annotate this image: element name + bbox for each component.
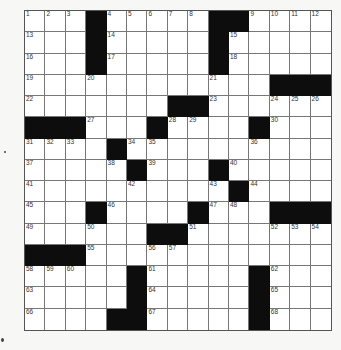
answer-cell[interactable]: 43 — [209, 181, 229, 202]
answer-cell[interactable]: 62 — [270, 266, 290, 287]
answer-cell[interactable] — [168, 160, 188, 181]
answer-cell[interactable] — [229, 96, 249, 117]
answer-cell[interactable]: 40 — [229, 160, 249, 181]
answer-cell[interactable] — [66, 54, 86, 75]
answer-cell[interactable] — [107, 75, 127, 96]
answer-cell[interactable]: 58 — [25, 266, 45, 287]
answer-cell[interactable] — [127, 224, 147, 245]
answer-cell[interactable] — [45, 202, 65, 223]
answer-cell[interactable]: 8 — [188, 11, 208, 32]
answer-cell[interactable]: 1 — [25, 11, 45, 32]
answer-cell[interactable]: 56 — [147, 245, 167, 266]
answer-cell[interactable] — [188, 266, 208, 287]
answer-cell[interactable]: 22 — [25, 96, 45, 117]
answer-cell[interactable]: 14 — [107, 32, 127, 53]
answer-cell[interactable] — [45, 160, 65, 181]
answer-cell[interactable]: 31 — [25, 139, 45, 160]
answer-cell[interactable]: 50 — [86, 224, 106, 245]
answer-cell[interactable] — [311, 139, 331, 160]
answer-cell[interactable]: 64 — [147, 287, 167, 308]
answer-cell[interactable] — [107, 266, 127, 287]
answer-cell[interactable] — [249, 160, 269, 181]
answer-cell[interactable] — [188, 287, 208, 308]
answer-cell[interactable] — [311, 287, 331, 308]
answer-cell[interactable]: 20 — [86, 75, 106, 96]
answer-cell[interactable] — [270, 32, 290, 53]
answer-cell[interactable] — [45, 75, 65, 96]
answer-cell[interactable] — [86, 309, 106, 330]
answer-cell[interactable] — [311, 54, 331, 75]
answer-cell[interactable] — [209, 266, 229, 287]
answer-cell[interactable] — [229, 309, 249, 330]
answer-cell[interactable]: 15 — [229, 32, 249, 53]
answer-cell[interactable] — [66, 287, 86, 308]
answer-cell[interactable] — [311, 181, 331, 202]
answer-cell[interactable] — [168, 32, 188, 53]
answer-cell[interactable] — [249, 224, 269, 245]
answer-cell[interactable] — [188, 309, 208, 330]
answer-cell[interactable] — [147, 202, 167, 223]
answer-cell[interactable] — [209, 224, 229, 245]
answer-cell[interactable] — [311, 117, 331, 138]
answer-cell[interactable] — [127, 117, 147, 138]
answer-cell[interactable] — [168, 202, 188, 223]
answer-cell[interactable]: 10 — [270, 11, 290, 32]
answer-cell[interactable] — [107, 96, 127, 117]
answer-cell[interactable] — [249, 54, 269, 75]
answer-cell[interactable]: 7 — [168, 11, 188, 32]
answer-cell[interactable] — [311, 309, 331, 330]
answer-cell[interactable] — [147, 181, 167, 202]
answer-cell[interactable] — [290, 139, 310, 160]
answer-cell[interactable] — [209, 287, 229, 308]
answer-cell[interactable]: 33 — [66, 139, 86, 160]
answer-cell[interactable] — [290, 266, 310, 287]
answer-cell[interactable] — [86, 139, 106, 160]
answer-cell[interactable] — [188, 181, 208, 202]
answer-cell[interactable]: 3 — [66, 11, 86, 32]
answer-cell[interactable]: 46 — [107, 202, 127, 223]
answer-cell[interactable]: 61 — [147, 266, 167, 287]
answer-cell[interactable] — [168, 309, 188, 330]
answer-cell[interactable]: 2 — [45, 11, 65, 32]
answer-cell[interactable] — [209, 245, 229, 266]
answer-cell[interactable]: 65 — [270, 287, 290, 308]
answer-cell[interactable] — [229, 245, 249, 266]
answer-cell[interactable]: 11 — [290, 11, 310, 32]
answer-cell[interactable]: 36 — [249, 139, 269, 160]
answer-cell[interactable] — [229, 266, 249, 287]
answer-cell[interactable]: 5 — [127, 11, 147, 32]
answer-cell[interactable] — [168, 266, 188, 287]
answer-cell[interactable] — [168, 139, 188, 160]
answer-cell[interactable] — [270, 54, 290, 75]
answer-cell[interactable] — [249, 245, 269, 266]
answer-cell[interactable] — [66, 75, 86, 96]
answer-cell[interactable]: 38 — [107, 160, 127, 181]
answer-cell[interactable] — [290, 117, 310, 138]
answer-cell[interactable]: 37 — [25, 160, 45, 181]
answer-cell[interactable] — [86, 160, 106, 181]
answer-cell[interactable] — [147, 96, 167, 117]
answer-cell[interactable] — [66, 32, 86, 53]
answer-cell[interactable]: 49 — [25, 224, 45, 245]
answer-cell[interactable] — [290, 309, 310, 330]
answer-cell[interactable] — [66, 181, 86, 202]
answer-cell[interactable] — [127, 202, 147, 223]
answer-cell[interactable] — [311, 266, 331, 287]
answer-cell[interactable]: 48 — [229, 202, 249, 223]
answer-cell[interactable]: 44 — [249, 181, 269, 202]
answer-cell[interactable]: 24 — [270, 96, 290, 117]
answer-cell[interactable] — [188, 139, 208, 160]
answer-cell[interactable] — [188, 32, 208, 53]
answer-cell[interactable]: 51 — [188, 224, 208, 245]
answer-cell[interactable] — [270, 160, 290, 181]
answer-cell[interactable] — [229, 139, 249, 160]
answer-cell[interactable]: 47 — [209, 202, 229, 223]
answer-cell[interactable]: 68 — [270, 309, 290, 330]
answer-cell[interactable]: 55 — [86, 245, 106, 266]
answer-cell[interactable] — [168, 181, 188, 202]
answer-cell[interactable] — [86, 287, 106, 308]
answer-cell[interactable] — [147, 32, 167, 53]
answer-cell[interactable]: 53 — [290, 224, 310, 245]
answer-cell[interactable] — [127, 54, 147, 75]
answer-cell[interactable]: 16 — [25, 54, 45, 75]
